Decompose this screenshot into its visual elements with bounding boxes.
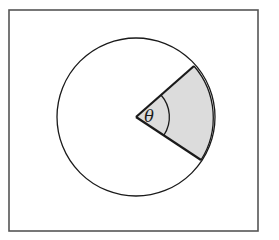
diagram-canvas: θ bbox=[0, 0, 279, 240]
angle-label: θ bbox=[144, 107, 154, 126]
frame-border bbox=[9, 10, 258, 231]
